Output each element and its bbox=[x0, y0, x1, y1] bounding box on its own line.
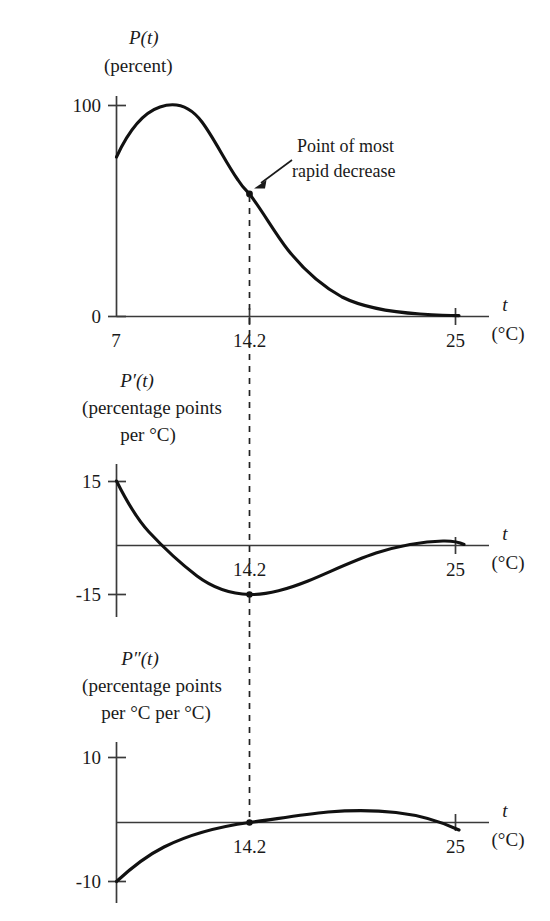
panel-p-of-t: Point of most rapid decrease P(t) (perce… bbox=[73, 27, 525, 351]
ppp-ylabel-line-2: (percentage points bbox=[82, 675, 222, 697]
p-xtick-label-25: 25 bbox=[446, 330, 465, 351]
ppp-xtick-label-25: 25 bbox=[446, 836, 465, 857]
ppp-ytick-label-10: 10 bbox=[82, 747, 101, 768]
p-ytick-label-100: 100 bbox=[73, 95, 102, 116]
pp-ytick-label-15: 15 bbox=[82, 471, 101, 492]
ppp-zero-crossing-marker bbox=[246, 819, 252, 825]
pp-ylabel-line-2: (percentage points bbox=[82, 397, 222, 419]
pp-xlabel-line-2: (°C) bbox=[492, 552, 525, 574]
p-ylabel-line-2: (percent) bbox=[104, 55, 173, 77]
pp-ylabel-line-3: per °C) bbox=[120, 424, 176, 446]
figure-canvas: Point of most rapid decrease P(t) (perce… bbox=[0, 0, 550, 921]
annotation-line-1: Point of most bbox=[297, 136, 394, 156]
p-curve bbox=[117, 105, 460, 316]
ppp-xlabel-line-2: (°C) bbox=[492, 829, 525, 851]
pp-xtick-label-25: 25 bbox=[446, 559, 465, 580]
ppp-xtick-label-14-2: 14.2 bbox=[233, 836, 266, 857]
pp-minimum-point-marker bbox=[246, 591, 252, 597]
calculus-derivative-figure: Point of most rapid decrease P(t) (perce… bbox=[0, 0, 550, 921]
pp-curve bbox=[117, 481, 465, 595]
ppp-xlabel-line-1: t bbox=[502, 800, 508, 821]
p-xlabel-line-2: (°C) bbox=[492, 323, 525, 345]
p-ytick-label-0: 0 bbox=[92, 306, 102, 327]
ppp-ylabel-line-1: P″(t) bbox=[120, 648, 158, 670]
pp-xlabel-line-1: t bbox=[502, 523, 508, 544]
p-ylabel-line-1: P(t) bbox=[128, 27, 159, 49]
annotation-arrow-shaft bbox=[261, 160, 292, 183]
p-xlabel-line-1: t bbox=[502, 294, 508, 315]
annotation-line-2: rapid decrease bbox=[292, 161, 395, 181]
pp-xtick-label-14-2: 14.2 bbox=[233, 559, 266, 580]
p-xtick-label-7: 7 bbox=[111, 330, 121, 351]
ppp-ytick-label-neg-10: -10 bbox=[76, 871, 101, 892]
pp-ytick-label-neg-15: -15 bbox=[76, 584, 101, 605]
panel-p-prime-of-t: P′(t) (percentage points per °C) 15 -15 … bbox=[76, 318, 525, 628]
pp-ylabel-line-1: P′(t) bbox=[119, 370, 154, 392]
ppp-ylabel-line-3: per °C per °C) bbox=[101, 702, 211, 724]
panel-p-double-prime-of-t: P″(t) (percentage points per °C per °C) … bbox=[76, 631, 525, 903]
ppp-curve bbox=[117, 811, 460, 882]
